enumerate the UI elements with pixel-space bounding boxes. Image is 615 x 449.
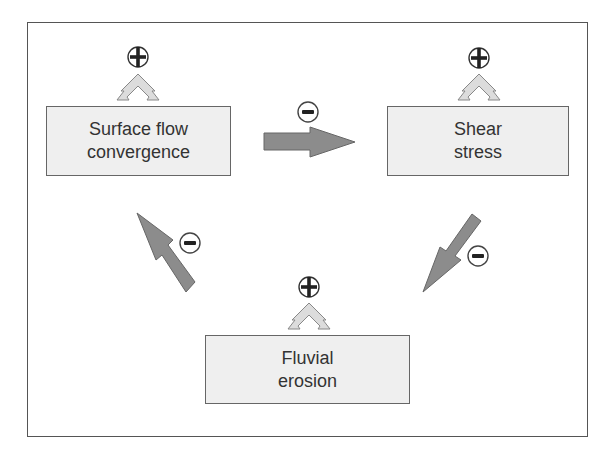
double-arrow-icon [288,303,330,329]
node-label-line: Surface flow [89,118,188,141]
self-effect-surface-flow [117,47,159,100]
double-arrow-icon [458,74,500,100]
self-effect-shear-stress [458,48,500,100]
edge-shear-to-erosion [423,214,488,292]
double-arrow-icon [117,74,159,100]
self-effect-fluvial-erosion [288,277,330,329]
plus-icon [128,47,148,67]
right-arrow-icon [264,127,355,157]
node-shear-stress: Shear stress [387,106,569,176]
node-label-line: Shear [454,118,502,141]
minus-icon [298,102,318,122]
node-fluvial-erosion: Fluvial erosion [205,335,410,404]
edge-erosion-to-surface [137,213,200,292]
node-label-line: Fluvial [281,347,333,370]
minus-icon [180,233,200,253]
node-label-line: stress [454,141,502,164]
plus-icon [299,277,319,297]
node-label-line: erosion [278,370,337,393]
plus-icon [469,48,489,68]
edge-surface-to-shear [264,102,355,157]
minus-icon [468,246,488,266]
node-surface-flow-convergence: Surface flow convergence [46,106,231,176]
node-label-line: convergence [87,141,190,164]
